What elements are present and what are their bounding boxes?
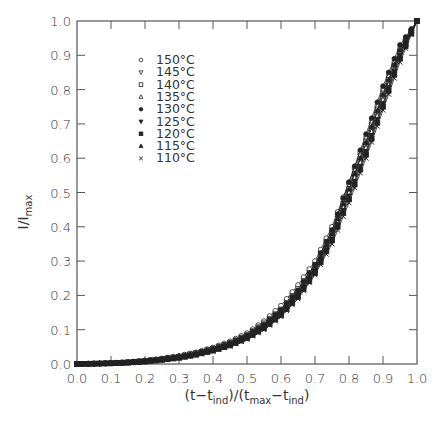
legend-marker-icon	[139, 157, 143, 161]
y-tick-label: 0.4	[50, 220, 71, 235]
series-120c	[75, 19, 420, 367]
x-tick-label: 0.3	[169, 371, 190, 386]
y-tick-label: 0.9	[50, 48, 71, 63]
plot-frame	[77, 21, 417, 364]
y-tick-label: 0.6	[50, 151, 71, 166]
y-tick-label: 0.7	[50, 117, 71, 132]
x-tick-label: 0.2	[135, 371, 156, 386]
series-140c	[75, 19, 420, 367]
y-tick-label: 0.2	[50, 288, 71, 303]
x-tick-label: 0.1	[101, 371, 122, 386]
x-tick-label: 0.6	[271, 371, 292, 386]
series-145c	[74, 19, 419, 367]
series-135c	[74, 18, 419, 366]
series-130c	[75, 19, 420, 367]
x-tick-label: 0.7	[305, 371, 326, 386]
x-tick-label: 1.0	[407, 371, 428, 386]
x-axis-label: (t−tind)/(tmax−tind)	[185, 387, 310, 406]
series-110c	[75, 19, 420, 367]
legend-label: 110°C	[156, 150, 195, 165]
y-tick-label: 0.1	[50, 323, 71, 338]
series-125c	[74, 19, 419, 367]
legend-marker-icon	[139, 58, 143, 62]
x-tick-label: 0.0	[67, 371, 88, 386]
legend-marker-icon	[139, 71, 143, 75]
y-tick-label: 0.0	[50, 357, 71, 372]
legend-item: 110°C	[139, 150, 195, 165]
legend-marker-icon	[139, 144, 143, 148]
x-tick-label: 0.5	[237, 371, 258, 386]
y-axis-label: I/Imax	[15, 195, 34, 230]
y-tick-label: 1.0	[50, 14, 71, 29]
y-tick-label: 0.8	[50, 83, 71, 98]
series-115c	[74, 18, 419, 366]
y-axis-ticks: 0.00.10.20.30.40.50.60.70.80.91.0	[50, 14, 417, 372]
legend-marker-icon	[139, 120, 143, 124]
y-tick-label: 0.3	[50, 254, 71, 269]
legend-marker-icon	[139, 95, 143, 99]
y-tick-label: 0.5	[50, 186, 71, 201]
x-tick-label: 0.4	[203, 371, 224, 386]
x-tick-label: 0.9	[373, 371, 394, 386]
legend-marker-icon	[139, 83, 143, 87]
legend-marker-icon	[139, 107, 143, 111]
chart: 0.00.10.20.30.40.50.60.70.80.91.0 0.00.1…	[0, 0, 443, 431]
legend: 150°C145°C140°C135°C130°C125°C120°C115°C…	[139, 52, 195, 165]
series-150c	[75, 19, 420, 367]
legend-marker-icon	[139, 132, 143, 136]
x-tick-label: 0.8	[339, 371, 360, 386]
data-series	[74, 18, 419, 367]
